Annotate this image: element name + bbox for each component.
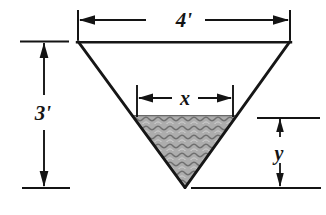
height-dimension: 3' xyxy=(20,42,70,188)
x-dim-left-arrowhead xyxy=(138,94,153,103)
top-dim-right-arrowhead xyxy=(273,15,289,25)
water-depth-label: y xyxy=(273,142,284,165)
x-dim-right-arrowhead xyxy=(217,94,232,103)
height-dim-top-arrowhead xyxy=(40,43,49,59)
water-width-label: x xyxy=(179,87,190,109)
height-dim-bottom-arrowhead xyxy=(40,171,49,187)
top-dim-left-arrowhead xyxy=(79,15,95,25)
trough-right-wall xyxy=(185,41,290,187)
water-region xyxy=(132,115,238,187)
y-dim-bottom-arrowhead xyxy=(276,173,284,187)
top-width-dimension: 4' xyxy=(78,8,290,40)
y-dim-top-arrowhead xyxy=(276,119,284,133)
water-width-dimension: x xyxy=(137,85,233,117)
water-fill xyxy=(132,115,238,187)
trough-left-wall xyxy=(78,41,185,187)
figure-container: 4' 3' x xyxy=(0,0,326,215)
trough-diagram: 4' 3' x xyxy=(0,0,326,215)
top-width-label: 4' xyxy=(175,8,193,32)
height-label: 3' xyxy=(34,101,52,125)
